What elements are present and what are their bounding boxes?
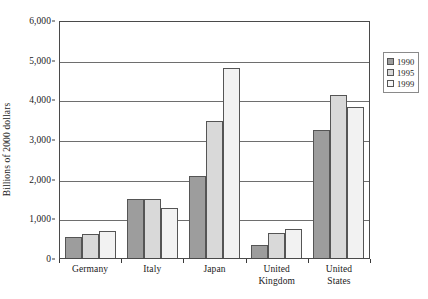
bar[interactable] (99, 231, 116, 258)
bar[interactable] (161, 208, 178, 258)
x-tick-label-line: United (308, 264, 370, 276)
bar-group (245, 22, 307, 258)
bar[interactable] (268, 233, 285, 258)
x-tick-label-line: Germany (59, 264, 121, 276)
x-tick-label: Germany (59, 264, 121, 287)
x-tick-mark (308, 259, 309, 263)
bar[interactable] (347, 107, 364, 258)
legend-swatch-icon (387, 69, 394, 76)
bar[interactable] (313, 130, 330, 258)
y-tick-label: 1,000 (29, 214, 51, 224)
x-tick-label-line: Kingdom (246, 276, 308, 288)
y-tick-label: 5,000 (29, 56, 51, 66)
bar-group (60, 22, 122, 258)
legend-item[interactable]: 1999 (387, 78, 414, 89)
x-tick-mark (183, 259, 184, 263)
x-tick-mark (59, 259, 60, 263)
bar-groups (60, 22, 369, 258)
plot-area (59, 21, 370, 259)
bar[interactable] (127, 199, 144, 258)
x-tick-label: Japan (183, 264, 245, 287)
legend-label: 1990 (397, 57, 414, 67)
y-tick-mark (52, 259, 55, 260)
bar-group (307, 22, 369, 258)
legend-swatch-icon (387, 80, 394, 87)
legend-swatch-icon (387, 58, 394, 65)
y-tick-label: 4,000 (29, 95, 51, 105)
y-tick-label: 2,000 (29, 175, 51, 185)
y-tick-mark (52, 219, 55, 220)
y-tick-mark (52, 100, 55, 101)
bar[interactable] (223, 68, 240, 258)
x-tick-mark (370, 259, 371, 263)
bar-group (122, 22, 184, 258)
legend-item[interactable]: 1995 (387, 67, 414, 78)
bar-group (184, 22, 246, 258)
y-tick-mark (52, 60, 55, 61)
bar[interactable] (285, 229, 302, 258)
x-tick-label: UnitedKingdom (246, 264, 308, 287)
y-axis-tick-labels: 01,0002,0003,0004,0005,0006,000 (14, 21, 55, 259)
y-tick-mark (52, 140, 55, 141)
x-tick-label-line: Japan (183, 264, 245, 276)
x-tick-mark (121, 259, 122, 263)
bar[interactable] (144, 199, 161, 258)
y-axis-title: Billions of 2000 dollars (0, 0, 14, 299)
bar-chart-figure: Billions of 2000 dollars 01,0002,0003,00… (0, 0, 428, 299)
chart-legend: 199019951999 (383, 52, 419, 93)
y-tick-mark (52, 21, 55, 22)
x-tick-label-line: Italy (121, 264, 183, 276)
bar[interactable] (65, 237, 82, 258)
x-tick-label-line: United (246, 264, 308, 276)
x-tick-label-line: States (308, 276, 370, 288)
y-tick-mark (52, 179, 55, 180)
legend-item[interactable]: 1990 (387, 56, 414, 67)
x-tick-mark (246, 259, 247, 263)
bar[interactable] (82, 234, 99, 258)
bar[interactable] (330, 95, 347, 258)
legend-label: 1995 (397, 68, 414, 78)
y-tick-label: 3,000 (29, 135, 51, 145)
x-axis-tick-labels: GermanyItalyJapanUnitedKingdomUnitedStat… (59, 264, 370, 287)
bar[interactable] (189, 176, 206, 258)
legend-label: 1999 (397, 79, 414, 89)
bar[interactable] (251, 245, 268, 258)
x-tick-label: Italy (121, 264, 183, 287)
bar[interactable] (206, 121, 223, 258)
y-tick-label: 6,000 (29, 16, 51, 26)
x-tick-label: UnitedStates (308, 264, 370, 287)
y-tick-label: 0 (46, 254, 51, 264)
